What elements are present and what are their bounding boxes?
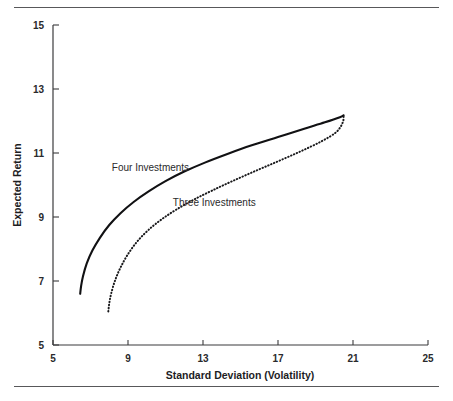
chart-figure: 579111315 5913172125 Four InvestmentsThr… [0,0,453,401]
x-tick-label: 13 [197,353,209,364]
x-tick-label: 9 [125,353,131,364]
series-curves [80,115,343,311]
series-label-1: Four Investments [112,162,189,173]
series-label-2: Three Investments [173,197,256,208]
efficient-frontier-plot: 579111315 5913172125 Four InvestmentsThr… [0,0,453,401]
y-tick-label: 9 [38,212,44,223]
y-tick-label: 5 [38,340,44,351]
y-tick-label: 11 [33,148,44,159]
y-axis-title: Expected Return [11,143,23,226]
y-tick-label: 13 [33,84,45,95]
x-tick-label: 5 [50,353,56,364]
x-axis-title: Standard Deviation (Volatility) [166,369,315,381]
x-axis-ticks: 5913172125 [50,340,434,364]
x-tick-label: 21 [347,353,359,364]
x-tick-label: 25 [422,353,434,364]
x-tick-label: 17 [272,353,284,364]
y-axis-ticks: 579111315 [33,20,59,351]
y-tick-label: 7 [38,276,44,287]
series-curve-2 [108,115,343,311]
y-tick-label: 15 [33,20,45,31]
